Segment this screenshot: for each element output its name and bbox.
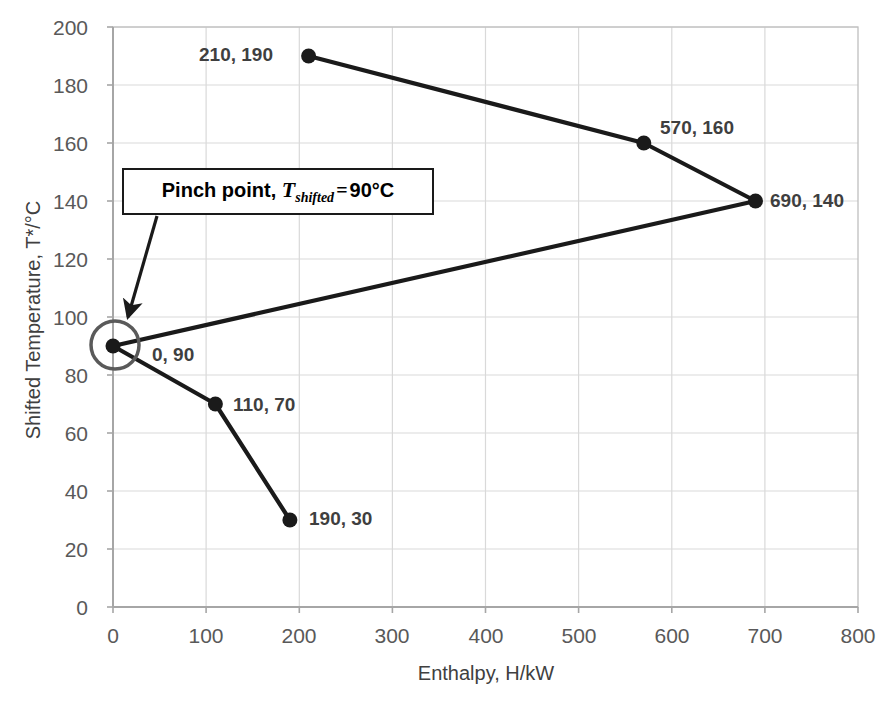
x-tick-700: 700: [735, 625, 795, 646]
x-tick-600: 600: [642, 625, 702, 646]
data-marker-110-70: [208, 397, 223, 412]
y-tick-200: 200: [36, 17, 88, 38]
x-tick-300: 300: [362, 625, 422, 646]
point-label-110-70: 110, 70: [233, 395, 295, 414]
point-label-190-30: 190, 30: [309, 509, 372, 528]
callout-text: Pinch point, Tshifted=90°C: [162, 177, 394, 206]
x-tick-400: 400: [456, 625, 516, 646]
y-tick-180: 180: [36, 75, 88, 96]
x-tick-200: 200: [269, 625, 329, 646]
callout-symbol-t: T: [282, 177, 295, 202]
point-label-0-90: 0, 90: [152, 345, 194, 364]
y-tick-160: 160: [36, 133, 88, 154]
y-tick-0: 0: [36, 597, 88, 618]
y-tick-20: 20: [36, 539, 88, 560]
callout-subscript: shifted: [295, 190, 334, 205]
callout-math-symbol: Tshifted: [282, 177, 334, 202]
data-marker-570-160: [636, 136, 651, 151]
pinch-callout-arrow: [128, 216, 157, 317]
data-marker-190-30: [282, 513, 297, 528]
x-tick-100: 100: [176, 625, 236, 646]
y-axis-title: Shifted Temperature, T*/°C: [23, 170, 43, 470]
callout-equals: =: [334, 179, 349, 201]
grand-composite-curve-chart: 200 180 160 140 120 100 80 60 40 20 0 0 …: [0, 0, 891, 704]
callout-value: 90°C: [350, 179, 395, 201]
data-marker-690-140: [748, 194, 763, 209]
plot-canvas: [0, 0, 891, 704]
point-label-570-160: 570, 160: [660, 118, 734, 137]
callout-prefix: Pinch point,: [162, 179, 282, 201]
x-tick-0: 0: [83, 625, 143, 646]
pinch-point-callout-box: Pinch point, Tshifted=90°C: [122, 168, 434, 215]
x-tick-500: 500: [549, 625, 609, 646]
data-marker-0-90: [106, 339, 121, 354]
x-tick-800: 800: [828, 625, 888, 646]
data-marker-210-190: [301, 49, 316, 64]
point-label-690-140: 690, 140: [770, 191, 844, 210]
point-label-210-190: 210, 190: [199, 45, 273, 64]
x-axis-title: Enthalpy, H/kW: [296, 663, 676, 683]
y-tick-40: 40: [36, 481, 88, 502]
